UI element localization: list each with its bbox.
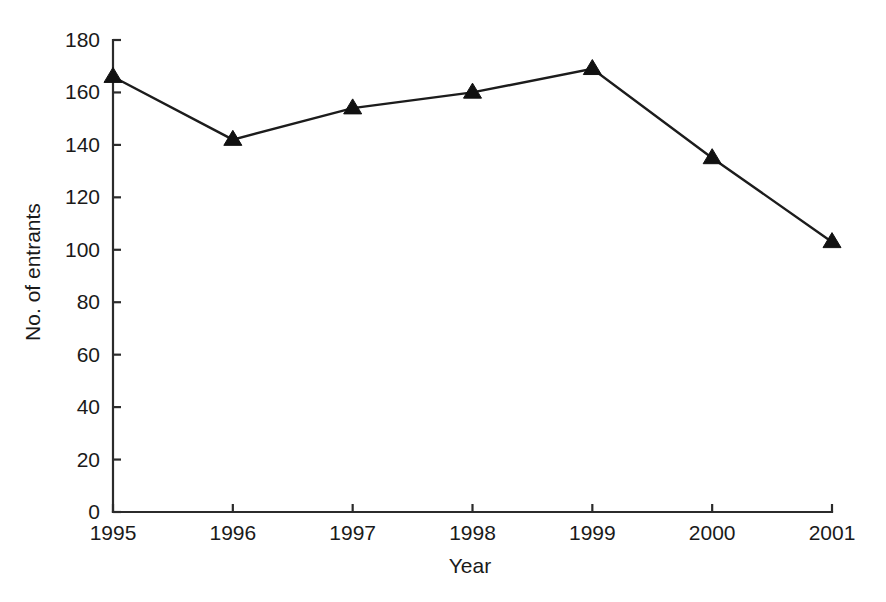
y-tick-label: 160: [65, 80, 100, 103]
y-axis-title: No. of entrants: [21, 203, 44, 341]
y-tick-label: 0: [88, 500, 100, 523]
data-point-marker: [583, 60, 601, 75]
x-tick-label: 1999: [569, 521, 616, 544]
y-tick-label: 180: [65, 28, 100, 51]
x-axis-ticks: 1995199619971998199920002001: [90, 504, 856, 544]
y-tick-label: 80: [77, 290, 100, 313]
x-tick-label: 2000: [689, 521, 736, 544]
y-tick-label: 60: [77, 343, 100, 366]
data-point-marker: [104, 67, 122, 82]
series-markers: [104, 60, 841, 248]
y-tick-label: 120: [65, 185, 100, 208]
x-tick-label: 1995: [90, 521, 137, 544]
y-tick-label: 100: [65, 238, 100, 261]
x-axis-title: Year: [449, 554, 491, 577]
chart-canvas: 020406080100120140160180 199519961997199…: [0, 0, 886, 602]
x-tick-label: 1998: [449, 521, 496, 544]
data-series-group: [104, 60, 841, 248]
x-tick-label: 2001: [809, 521, 856, 544]
y-tick-label: 40: [77, 395, 100, 418]
line-chart: 020406080100120140160180 199519961997199…: [0, 0, 886, 602]
y-tick-label: 140: [65, 133, 100, 156]
data-point-marker: [703, 149, 721, 164]
data-point-marker: [823, 233, 841, 248]
x-tick-label: 1996: [209, 521, 256, 544]
x-tick-label: 1997: [329, 521, 376, 544]
y-tick-label: 20: [77, 448, 100, 471]
